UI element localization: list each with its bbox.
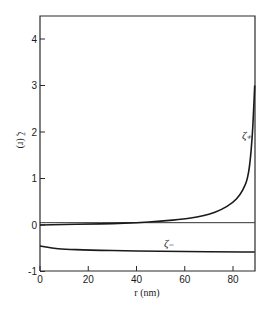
- y-tick-label: -1: [28, 266, 37, 277]
- plot-frame: [40, 16, 255, 271]
- y-tick-label: 0: [31, 220, 37, 231]
- x-axis-ticks: 020406080: [37, 266, 239, 285]
- y-tick-label: 2: [31, 127, 37, 138]
- x-tick-label: 0: [37, 274, 43, 285]
- zeta-plus-label: ζ₊: [242, 129, 252, 142]
- x-tick-label: 20: [83, 274, 95, 285]
- x-tick-label: 40: [131, 274, 143, 285]
- data-series: [40, 86, 255, 252]
- zeta-minus-label: ζ₋: [164, 237, 174, 250]
- series-line-1: [40, 246, 255, 252]
- series-line-0: [40, 86, 255, 226]
- y-tick-label: 3: [31, 80, 37, 91]
- y-tick-label: 4: [31, 34, 37, 45]
- x-axis-label: r (nm): [134, 287, 159, 299]
- y-axis-label: ζ (r): [15, 132, 27, 149]
- chart: -101234 020406080 ζ (r) r (nm) ζ₊ ζ₋: [0, 0, 269, 312]
- x-tick-label: 60: [179, 274, 191, 285]
- y-axis-ticks: -101234: [28, 34, 45, 278]
- x-tick-label: 80: [227, 274, 239, 285]
- y-tick-label: 1: [31, 173, 37, 184]
